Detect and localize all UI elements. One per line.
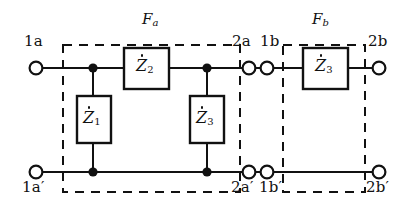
circuit-diagram-canvas: Fa Fb Z2 Z1 Z3 Z3 1a 2a 1b 2b 1a′ 2a′ 1b… — [0, 0, 418, 217]
junction-dot-top-left — [88, 63, 97, 72]
impedance-label-Z3b: Z3 — [315, 58, 333, 75]
terminal-node-1a-prime[interactable] — [30, 166, 43, 179]
terminal-label-2b: 2b — [368, 34, 388, 49]
z-dot-accent-Z2: Z — [136, 58, 147, 74]
junction-dot-top-right — [202, 63, 211, 72]
impedance-label-Z2-subscript: 2 — [147, 64, 153, 75]
terminal-label-2a-prime: 2a′ — [231, 180, 254, 195]
terminal-label-2a: 2a — [232, 34, 251, 49]
impedance-label-Z2: Z2 — [136, 58, 154, 75]
z-dot-accent-Z3b: Z — [315, 58, 326, 74]
terminal-label-1a: 1a — [24, 34, 43, 49]
network-label-Fa: Fa — [142, 12, 159, 28]
z-dot-accent-Z3a: Z — [196, 110, 207, 126]
terminal-label-1a-prime: 1a′ — [22, 180, 45, 195]
network-label-Fa-subscript: a — [153, 17, 159, 28]
terminal-node-2b[interactable] — [373, 62, 386, 75]
impedance-label-Z1-subscript: 1 — [94, 116, 100, 127]
terminal-node-1b-prime[interactable] — [261, 166, 274, 179]
network-label-Fb-subscript: b — [323, 17, 330, 28]
terminal-label-2b-prime: 2b′ — [366, 180, 389, 195]
terminal-node-1b[interactable] — [261, 62, 274, 75]
circuit-schematic-svg — [0, 0, 418, 217]
terminal-node-1a[interactable] — [30, 62, 43, 75]
terminal-node-2b-prime[interactable] — [373, 166, 386, 179]
prime-mark-2a: ′ — [250, 178, 254, 196]
impedance-label-Z1: Z1 — [83, 110, 101, 127]
prime-mark-1b: ′ — [279, 178, 283, 196]
prime-mark-2b: ′ — [386, 178, 390, 196]
terminal-label-1b-prime: 1b′ — [259, 180, 282, 195]
z-dot-accent-Z1: Z — [83, 110, 94, 126]
impedance-label-Z3a: Z3 — [196, 110, 214, 127]
terminal-label-1b: 1b — [260, 34, 280, 49]
prime-mark-1a: ′ — [41, 178, 45, 196]
terminal-node-2a-prime[interactable] — [243, 166, 256, 179]
network-label-Fb: Fb — [312, 12, 329, 28]
impedance-label-Z3a-subscript: 3 — [207, 116, 213, 127]
terminal-node-2a[interactable] — [243, 62, 256, 75]
junction-dot-bottom-right — [202, 167, 211, 176]
junction-dot-bottom-left — [88, 167, 97, 176]
impedance-label-Z3b-subscript: 3 — [326, 64, 332, 75]
